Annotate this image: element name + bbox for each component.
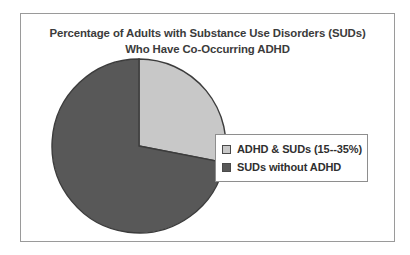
chart-frame: Percentage of Adults with Substance Use … xyxy=(20,13,395,242)
pie-chart xyxy=(51,58,227,234)
legend-swatch-icon-suds-without-adhd xyxy=(222,163,231,172)
legend-item-adhd-and-suds[interactable]: ADHD & SUDs (15--35%) xyxy=(222,140,362,158)
legend-swatch-icon-adhd-and-suds xyxy=(222,145,231,154)
chart-title: Percentage of Adults with Substance Use … xyxy=(21,26,394,57)
chart-title-line-1: Percentage of Adults with Substance Use … xyxy=(21,26,394,42)
chart-title-line-2: Who Have Co-Occurring ADHD xyxy=(21,42,394,58)
pie-chart-svg xyxy=(51,58,227,234)
chart-legend: ADHD & SUDs (15--35%) SUDs without ADHD xyxy=(215,134,368,182)
pie-slice-adhd-and-suds[interactable] xyxy=(139,59,226,163)
legend-label-suds-without-adhd: SUDs without ADHD xyxy=(237,161,341,173)
legend-label-adhd-and-suds: ADHD & SUDs (15--35%) xyxy=(237,143,362,155)
legend-item-suds-without-adhd[interactable]: SUDs without ADHD xyxy=(222,158,362,176)
